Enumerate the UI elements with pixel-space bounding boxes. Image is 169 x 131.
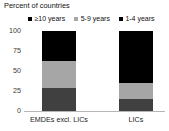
- legend-item-1-4-years[interactable]: 1-4 years: [119, 15, 155, 23]
- chart-title: Percent of countries: [4, 1, 70, 10]
- legend-swatch-1-4-years-icon: [119, 17, 123, 21]
- bar-group-emdes-excl-lics[interactable]: [42, 31, 76, 111]
- y-axis: 100 75 50 25 0: [0, 26, 21, 116]
- legend-label-10-plus-years: ≥10 years: [35, 15, 66, 23]
- x-axis: EMDEs excl. LICs LICs: [24, 113, 165, 129]
- bar-stack: [119, 31, 153, 111]
- bar-segment-1-4-years[interactable]: [119, 99, 153, 111]
- x-tick-label-lics: LICs: [101, 115, 169, 124]
- y-tick-label-75: 75: [0, 46, 21, 55]
- y-tick-label-100: 100: [0, 26, 21, 35]
- bar-segment-10-plus-years[interactable]: [42, 31, 76, 61]
- legend-label-1-4-years: 1-4 years: [125, 15, 154, 23]
- legend-swatch-5-9-years-icon: [74, 17, 78, 21]
- chart-container: Percent of countries ≥10 years 5-9 years…: [0, 0, 169, 131]
- x-tick-label-emdes-excl-lics: EMDEs excl. LICs: [24, 115, 94, 124]
- plot-area: [24, 31, 165, 111]
- legend-swatch-10-plus-years-icon: [28, 17, 32, 21]
- legend-item-5-9-years[interactable]: 5-9 years: [74, 15, 110, 23]
- y-tick-label-0: 0: [0, 106, 21, 115]
- legend-label-5-9-years: 5-9 years: [81, 15, 110, 23]
- bar-segment-1-4-years[interactable]: [42, 88, 76, 111]
- bar-stack: [42, 31, 76, 111]
- legend-item-10-plus-years[interactable]: ≥10 years: [28, 15, 65, 23]
- chart-legend: ≥10 years 5-9 years 1-4 years: [28, 14, 155, 24]
- y-tick-label-50: 50: [0, 66, 21, 75]
- bar-segment-5-9-years[interactable]: [42, 61, 76, 87]
- bar-group-lics[interactable]: [119, 31, 153, 111]
- y-tick-label-25: 25: [0, 86, 21, 95]
- bar-segment-5-9-years[interactable]: [119, 83, 153, 99]
- x-axis-line: [24, 111, 165, 112]
- bar-segment-10-plus-years[interactable]: [119, 31, 153, 83]
